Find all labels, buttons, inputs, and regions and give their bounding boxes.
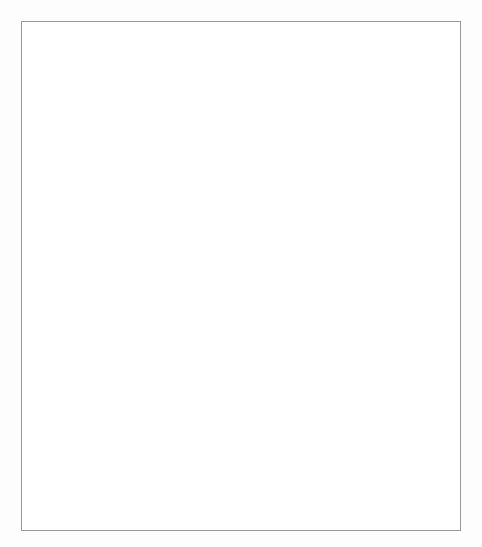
figure-canvas	[0, 0, 482, 547]
chart-frame	[21, 21, 461, 531]
